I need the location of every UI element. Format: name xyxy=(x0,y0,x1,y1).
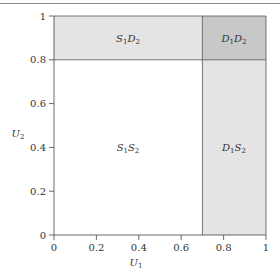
svg-text:0.4: 0.4 xyxy=(131,242,147,253)
svg-text:1: 1 xyxy=(263,242,269,253)
svg-text:0.8: 0.8 xyxy=(30,54,46,65)
svg-text:0.6: 0.6 xyxy=(30,98,46,109)
svg-text:0.2: 0.2 xyxy=(30,186,46,197)
svg-text:0: 0 xyxy=(51,242,57,253)
region-chart: 0 0.2 0.4 0.6 0.8 1 0 0.2 0.4 0.6 0.8 1 … xyxy=(0,0,280,279)
y-axis-label: U2 xyxy=(12,128,25,141)
svg-text:0.6: 0.6 xyxy=(173,242,189,253)
x-tick-labels: 0 0.2 0.4 0.6 0.8 1 xyxy=(51,242,269,253)
x-axis-label: U1 xyxy=(130,257,143,270)
svg-text:0.2: 0.2 xyxy=(88,242,104,253)
svg-text:1: 1 xyxy=(40,11,46,22)
y-tick-labels: 0 0.2 0.4 0.6 0.8 1 xyxy=(30,11,46,241)
svg-text:0: 0 xyxy=(40,230,46,241)
svg-text:0.4: 0.4 xyxy=(30,142,46,153)
svg-text:0.8: 0.8 xyxy=(216,242,232,253)
